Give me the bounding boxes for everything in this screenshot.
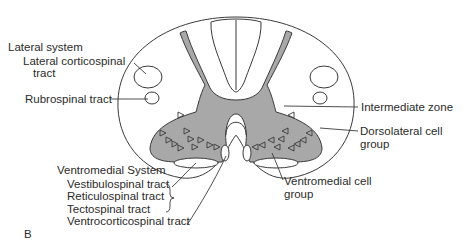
panel-label: B — [24, 228, 32, 240]
label-lateral-corticospinal: Lateral corticospinal — [23, 55, 125, 67]
lateral-corticospinal-tract-right — [310, 66, 338, 88]
label-lateral-corticospinal-tract: tract — [33, 67, 55, 79]
label-intermediate-zone: Intermediate zone — [361, 101, 453, 113]
rubrospinal-tract-left — [145, 92, 159, 104]
ventral-medial-right — [243, 145, 251, 161]
label-ventromedial-cell: Ventromedial cell — [284, 175, 372, 187]
label-tectospinal: Tectospinal tract — [67, 203, 150, 215]
label-lateral-system: Lateral system — [8, 41, 83, 53]
label-ventrocorticospinal: Ventrocorticospinal tract — [67, 215, 190, 227]
label-dorsolateral-group: group — [360, 138, 389, 150]
label-rubrospinal: Rubrospinal tract — [25, 93, 112, 105]
lateral-corticospinal-tract-left — [134, 66, 162, 88]
label-ventromedial-system: Ventromedial System — [57, 164, 166, 176]
label-vestibulospinal: Vestibulospinal tract — [67, 178, 169, 190]
rubrospinal-tract-right — [313, 92, 327, 104]
label-reticulospinal: Reticulospinal tract — [67, 190, 164, 202]
label-ventromedial-group: group — [284, 188, 313, 200]
label-dorsolateral-cell: Dorsolateral cell — [360, 125, 442, 137]
